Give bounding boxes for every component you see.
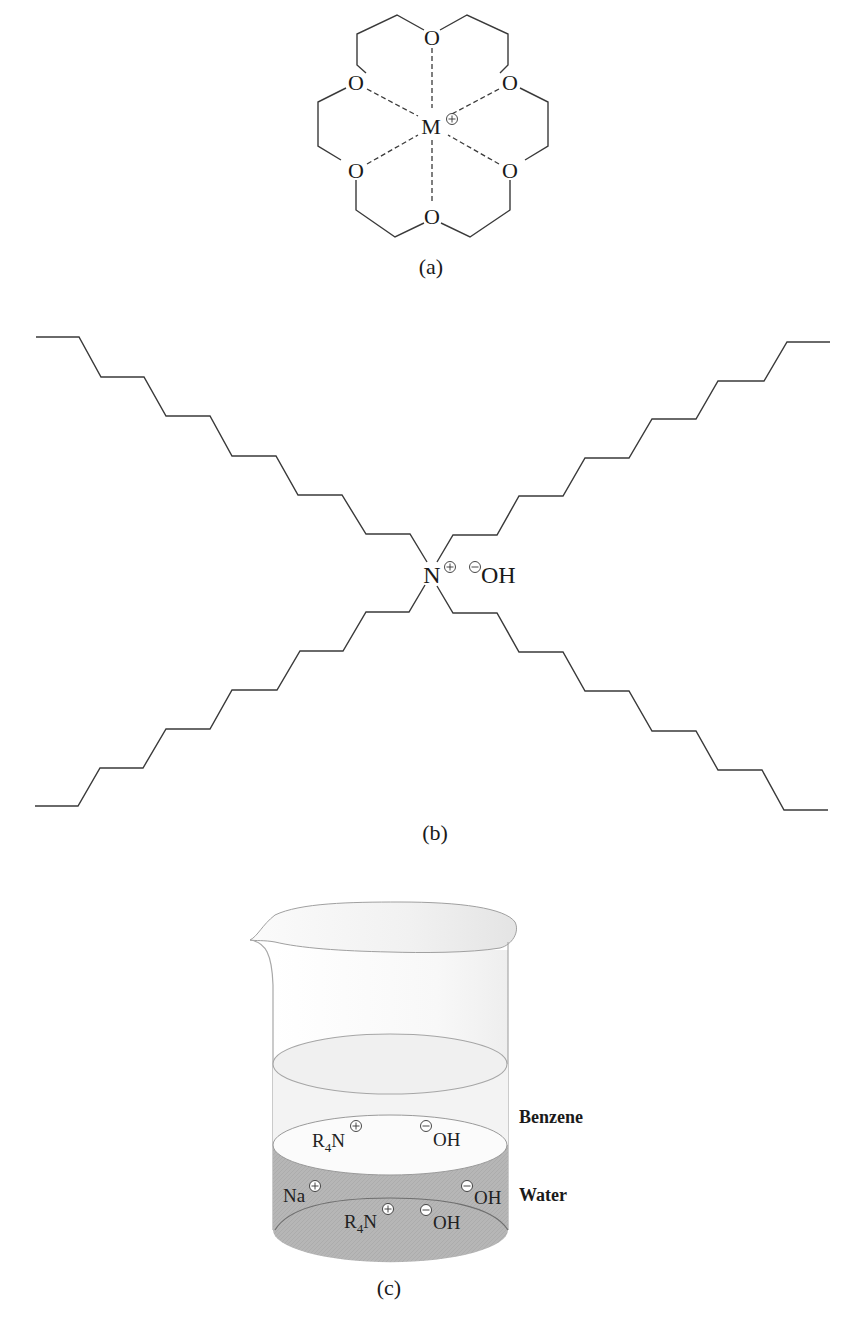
minus-charge-icon	[462, 1181, 473, 1192]
minus-charge-icon	[421, 1205, 432, 1216]
alkyl-chain-upper-left	[36, 337, 427, 562]
plus-charge-icon	[447, 114, 458, 125]
oxygen-atom-top: O	[424, 25, 440, 50]
caption-a: (a)	[419, 254, 443, 279]
minus-charge-icon	[421, 1121, 432, 1132]
nitrogen-cation: N	[423, 562, 440, 588]
benzene-water-interface	[273, 1115, 507, 1175]
oxygen-atom-upper-right: O	[502, 70, 518, 95]
benzene-label: Benzene	[519, 1107, 583, 1127]
ion-oh-water-center: OH	[433, 1212, 461, 1233]
minus-charge-icon	[470, 562, 481, 573]
ion-na-water: Na	[283, 1185, 306, 1206]
oxygen-atom-bottom: O	[424, 204, 440, 229]
ion-oh-water-right: OH	[474, 1187, 502, 1208]
water-layer	[273, 1115, 508, 1262]
caption-c: (c)	[377, 1275, 401, 1300]
figure-canvas: O O O O O O M (a) N	[0, 0, 848, 1327]
beaker-rim	[250, 902, 517, 953]
plus-charge-icon	[310, 1181, 321, 1192]
beaker-left-wall	[250, 940, 273, 1230]
panel-c-beaker: R4N OH Na OH	[250, 902, 583, 1300]
caption-b: (b)	[422, 820, 448, 845]
alkyl-chain-lower-left	[35, 585, 425, 806]
plus-charge-icon	[383, 1204, 394, 1215]
hydroxide-anion: OH	[481, 562, 516, 588]
alkyl-chain-lower-right	[437, 586, 828, 810]
oxygen-atom-upper-left: O	[348, 70, 364, 95]
alkyl-chain-upper-right	[437, 342, 830, 562]
plus-charge-icon	[351, 1121, 362, 1132]
plus-charge-icon	[445, 562, 456, 573]
benzene-surface	[273, 1034, 507, 1094]
oxygen-atom-lower-left: O	[348, 158, 364, 183]
water-label: Water	[519, 1185, 567, 1205]
ion-oh-benzene: OH	[433, 1129, 461, 1150]
metal-cation: M	[421, 114, 441, 139]
oxygen-atom-lower-right: O	[502, 158, 518, 183]
panel-a-crown-ether: O O O O O O M (a)	[318, 15, 548, 279]
panel-b-ammonium-hydroxide: N OH (b)	[35, 337, 830, 845]
